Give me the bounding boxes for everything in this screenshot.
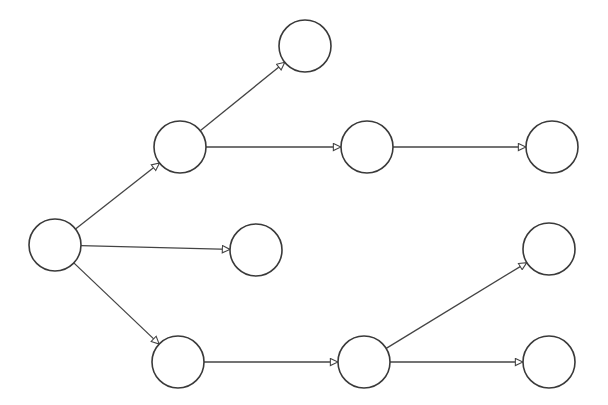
edge-n1-n4 bbox=[200, 62, 285, 130]
edge-n0-n2 bbox=[81, 246, 230, 250]
tree-diagram bbox=[0, 0, 608, 405]
node-n2 bbox=[230, 224, 282, 276]
node-n5 bbox=[341, 121, 393, 173]
node-n9 bbox=[523, 336, 575, 388]
node-n0 bbox=[29, 219, 81, 271]
edge-n0-n3 bbox=[74, 263, 159, 344]
node-n7 bbox=[338, 336, 390, 388]
node-n4 bbox=[279, 20, 331, 72]
node-n3 bbox=[152, 336, 204, 388]
edge-layer bbox=[74, 62, 527, 362]
node-layer bbox=[29, 20, 578, 388]
node-n8 bbox=[523, 223, 575, 275]
edge-n7-n8 bbox=[386, 263, 527, 349]
node-n6 bbox=[526, 121, 578, 173]
edge-n0-n1 bbox=[76, 163, 160, 229]
node-n1 bbox=[154, 121, 206, 173]
